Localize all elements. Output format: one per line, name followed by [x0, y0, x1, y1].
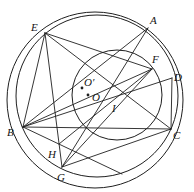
- segment-F-H: [59, 69, 152, 144]
- point-label-A: A: [149, 14, 157, 26]
- point-label-G: G: [57, 171, 65, 183]
- segment-D-C: [171, 78, 172, 129]
- diagram-page: EAFDO′OIBCHG: [0, 0, 194, 192]
- geometry-figure: EAFDO′OIBCHG: [0, 0, 194, 192]
- point-label-O1: O′: [84, 76, 95, 88]
- segment-E-F: [45, 33, 152, 69]
- point-label-C: C: [173, 129, 181, 141]
- segment-F-G: [62, 69, 152, 167]
- segment-A-G: [62, 28, 148, 167]
- point-label-E: E: [30, 21, 38, 33]
- point-label-O: O: [92, 91, 100, 103]
- segment-G-C: [62, 129, 171, 167]
- point-label-B: B: [7, 126, 14, 138]
- point-label-D: D: [173, 71, 182, 83]
- point-label-H: H: [47, 148, 57, 160]
- segment-E-C: [45, 33, 171, 129]
- point-dot-O: [87, 94, 90, 97]
- segment-B-E: [23, 33, 45, 127]
- point-label-F: F: [151, 53, 159, 65]
- point-dot-O1: [81, 87, 84, 90]
- segment-E-G: [45, 33, 62, 167]
